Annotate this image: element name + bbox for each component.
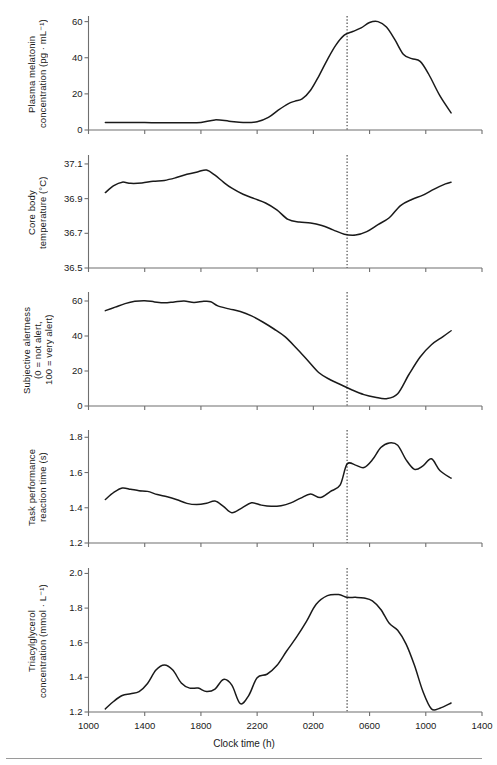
figure-bottom-rule bbox=[6, 758, 482, 759]
x-axis-title: Clock time (h) bbox=[0, 738, 488, 749]
data-curve-4 bbox=[105, 594, 451, 710]
